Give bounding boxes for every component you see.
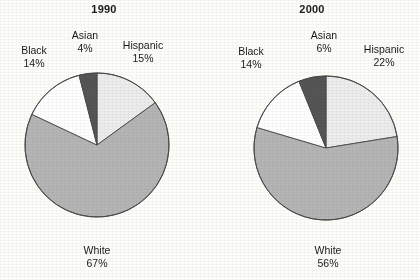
- pie-label-hispanic-2000: Hispanic 22%: [352, 43, 416, 68]
- pie-label-black-2000: Black 14%: [223, 45, 279, 70]
- pie-panel-1990: 1990 Black 14% Asian 4% Hispanic 15% Whi…: [0, 0, 210, 280]
- pie-label-white-value-1990: 67%: [69, 257, 125, 270]
- pie-label-asian-name-1990: Asian: [57, 29, 113, 42]
- pie-label-black-name-1990: Black: [6, 44, 62, 57]
- pie-label-black-value-2000: 14%: [223, 58, 279, 71]
- pie-label-asian-name-2000: Asian: [296, 29, 352, 42]
- pie-label-asian-2000: Asian 6%: [296, 29, 352, 54]
- pie-label-black-name-2000: Black: [223, 45, 279, 58]
- pie-label-hispanic-value-2000: 22%: [352, 56, 416, 69]
- pie-label-black-1990: Black 14%: [6, 44, 62, 69]
- pie-panel-2000: 2000 Black 14% Asian 6% Hispanic 22% Whi…: [210, 0, 420, 280]
- pie-label-hispanic-name-2000: Hispanic: [352, 43, 416, 56]
- pie-label-asian-value-2000: 6%: [296, 42, 352, 55]
- pie-slices-1990: [25, 73, 169, 217]
- pie-label-hispanic-value-1990: 15%: [111, 52, 175, 65]
- pie-label-asian-value-1990: 4%: [57, 42, 113, 55]
- pie-label-white-value-2000: 56%: [300, 257, 356, 270]
- pie-slices-2000: [254, 76, 398, 220]
- pie-label-white-1990: White 67%: [69, 244, 125, 269]
- pie-label-white-name-2000: White: [300, 244, 356, 257]
- pie-label-white-2000: White 56%: [300, 244, 356, 269]
- pie-label-hispanic-1990: Hispanic 15%: [111, 39, 175, 64]
- pie-label-hispanic-name-1990: Hispanic: [111, 39, 175, 52]
- pie-label-black-value-1990: 14%: [6, 57, 62, 70]
- pie-slice-hispanic-2000[interactable]: [326, 76, 397, 148]
- pie-label-asian-1990: Asian 4%: [57, 29, 113, 54]
- pie-label-white-name-1990: White: [69, 244, 125, 257]
